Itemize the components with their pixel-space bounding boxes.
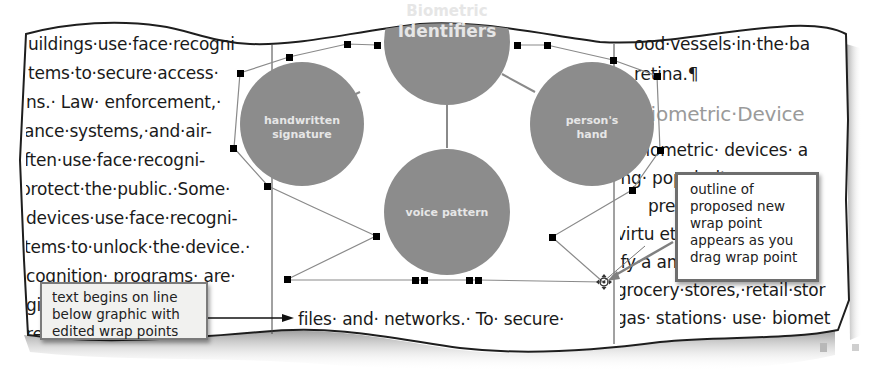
callout-line: below graphic with: [52, 306, 196, 323]
callout-line: wrap point: [690, 215, 804, 232]
node-label: person's: [566, 114, 619, 128]
node-voice-pattern[interactable]: voice pattern: [406, 206, 489, 220]
text-line: files· and· networks.· To· secure·: [298, 309, 564, 329]
text-below-graphic: files· and· networks.· To· secure·: [298, 305, 564, 333]
view-icon[interactable]: [852, 344, 859, 351]
node-label: Biometric: [398, 2, 497, 21]
callout-line: edited wrap points: [52, 323, 196, 340]
callout-line: text begins on line: [52, 289, 196, 306]
callout-line: appears as you: [690, 232, 804, 249]
callout-text-below-graphic: text begins on line below graphic with e…: [40, 282, 208, 340]
node-persons-hand[interactable]: person's hand: [566, 114, 619, 142]
node-handwritten-signature[interactable]: handwritten signature: [264, 114, 340, 142]
callout-line: outline of: [690, 181, 804, 198]
callout-line: proposed new: [690, 198, 804, 215]
view-icon[interactable]: [820, 343, 827, 352]
node-label: hand: [566, 128, 619, 142]
node-label: Identifiers: [398, 21, 497, 42]
word-document-excerpt: uildings·use·face·recogni tems·to·secure…: [0, 0, 877, 375]
callout-wrap-point-outline: outline of proposed new wrap point appea…: [675, 172, 819, 282]
node-label: voice pattern: [406, 206, 489, 220]
callout-line: drag wrap point: [690, 249, 804, 266]
node-label: signature: [264, 128, 340, 142]
node-biometric-identifiers[interactable]: Biometric Identifiers: [398, 2, 497, 42]
node-label: handwritten: [264, 114, 340, 128]
